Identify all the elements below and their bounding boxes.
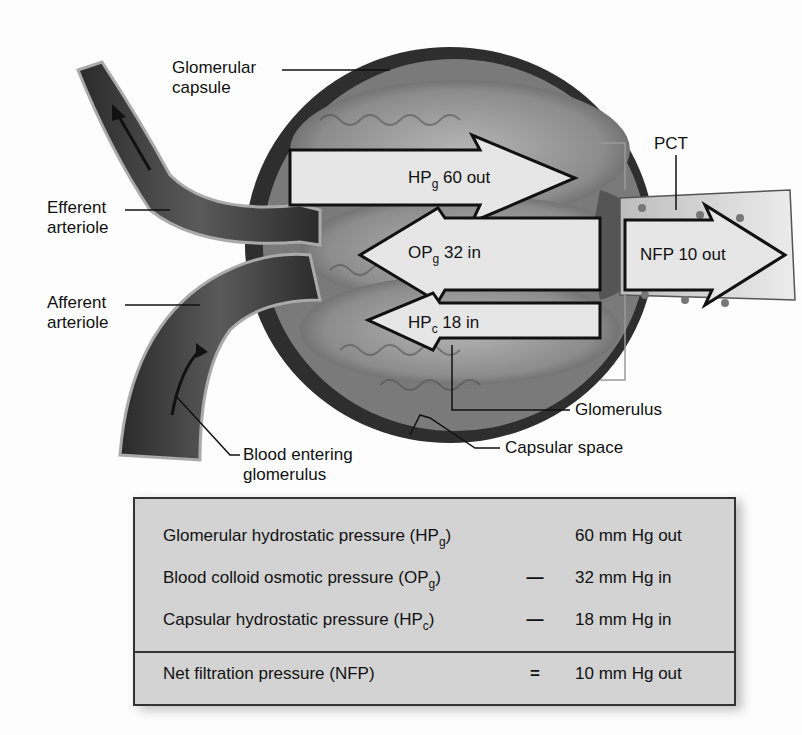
table-row-hpc: Capsular hydrostatic pressure (HPc) — 18… [135, 605, 734, 635]
label-pct: PCT [654, 134, 688, 154]
renal-corpuscle-illustration [0, 0, 802, 480]
label-glomerular-capsule: Glomerular capsule [172, 58, 256, 98]
table-divider [135, 651, 734, 653]
table-row-hpg: Glomerular hydrostatic pressure (HPg) 60… [135, 521, 734, 551]
table-row-nfp: Net filtration pressure (NFP) = 10 mm Hg… [135, 659, 734, 689]
arrow-label-nfp: NFP 10 out [640, 245, 726, 265]
pressure-summary-table: Glomerular hydrostatic pressure (HPg) 60… [133, 497, 736, 706]
label-efferent-arteriole: Efferent arteriole [47, 198, 108, 238]
arrow-label-hpc: HPc 18 in [408, 313, 479, 333]
label-afferent-arteriole: Afferent arteriole [47, 293, 108, 333]
label-capsular-space: Capsular space [505, 438, 623, 458]
label-blood-entering: Blood entering glomerulus [243, 445, 353, 485]
arrow-label-opg: OPg 32 in [408, 243, 481, 263]
table-row-opg: Blood colloid osmotic pressure (OPg) — 3… [135, 563, 734, 593]
label-glomerulus: Glomerulus [575, 400, 662, 420]
glomerulus-diagram: Glomerular capsule Efferent arteriole Af… [0, 0, 802, 480]
arrow-label-hpg: HPg 60 out [408, 168, 490, 188]
